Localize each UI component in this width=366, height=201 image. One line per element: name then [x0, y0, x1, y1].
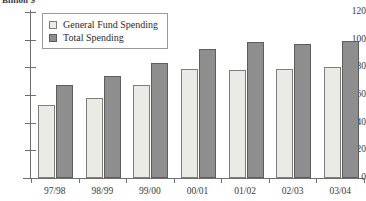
bar-99-00-total-spending — [151, 63, 168, 178]
x-axis-tick — [174, 178, 175, 183]
bar-01-02-general-fund-spending — [229, 70, 246, 178]
legend-item-total-spending: Total Spending — [49, 31, 158, 44]
bar-02-03-general-fund-spending — [276, 69, 293, 178]
bar-00-01-total-spending — [199, 49, 216, 178]
bar-chart: Billion $ 020406080100120 97/9898/9999/0… — [0, 0, 366, 201]
bar-02-03-total-spending — [294, 44, 311, 178]
bar-98-99-general-fund-spending — [86, 98, 103, 178]
x-axis-tick-label: 01/02 — [234, 186, 256, 196]
x-axis-line — [23, 178, 364, 179]
x-axis-tick — [364, 178, 365, 183]
bar-97-98-total-spending — [56, 85, 73, 178]
x-axis-tick — [269, 178, 270, 183]
x-axis-tick — [316, 178, 317, 183]
chart-legend: General Fund Spending Total Spending — [42, 13, 168, 49]
legend-swatch-total-spending — [49, 34, 57, 42]
legend-label-total-spending: Total Spending — [63, 32, 124, 43]
bar-01-02-total-spending — [247, 42, 264, 178]
x-axis-tick-label: 99/00 — [139, 186, 161, 196]
x-axis-tick-label: 98/99 — [92, 186, 114, 196]
x-axis-tick — [221, 178, 222, 183]
y-axis-unit-label: Billion $ — [2, 0, 35, 5]
bar-99-00-general-fund-spending — [133, 85, 150, 178]
legend-swatch-general-fund-spending — [49, 21, 57, 29]
x-axis-tick-label: 00/01 — [187, 186, 209, 196]
x-axis-tick — [31, 178, 32, 183]
x-axis-tick-label: 02/03 — [282, 186, 304, 196]
x-axis-tick — [126, 178, 127, 183]
x-axis-tick-label: 97/98 — [44, 186, 66, 196]
bar-03-04-total-spending — [342, 41, 359, 178]
bar-97-98-general-fund-spending — [38, 105, 55, 178]
bar-03-04-general-fund-spending — [324, 67, 341, 178]
x-axis-tick-label: 03/04 — [329, 186, 351, 196]
bar-00-01-general-fund-spending — [181, 69, 198, 178]
legend-label-general-fund-spending: General Fund Spending — [63, 19, 158, 30]
x-axis-tick — [79, 178, 80, 183]
legend-item-general-fund-spending: General Fund Spending — [49, 18, 158, 31]
bar-98-99-total-spending — [104, 76, 121, 178]
